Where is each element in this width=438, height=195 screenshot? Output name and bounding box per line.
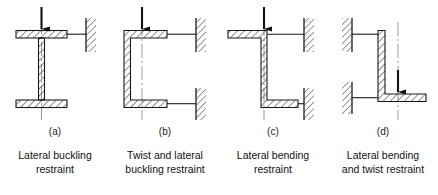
z-section-c [228, 31, 298, 108]
panel-b: (b) Twist and lateral buckling restraint [110, 0, 220, 195]
caption-line: Lateral buckling [0, 148, 110, 162]
panel-caption-c: Lateral bending restraint [218, 148, 328, 176]
wall-support-b-top [196, 18, 206, 52]
panel-d: (d) Lateral bending and twist restraint [328, 0, 438, 195]
caption-line: restraint [0, 162, 110, 176]
angle-section-d [378, 31, 426, 102]
panel-caption-a: Lateral buckling restraint [0, 148, 110, 176]
caption-line: and twist restraint [328, 162, 438, 176]
panel-a: (a) Lateral buckling restraint [0, 0, 110, 195]
panel-caption-d: Lateral bending and twist restraint [328, 148, 438, 176]
panel-c: (c) Lateral bending restraint [218, 0, 328, 195]
panel-label-c: (c) [218, 126, 328, 137]
wall-support-b-bottom [196, 88, 206, 120]
panel-label-d: (d) [328, 126, 438, 137]
caption-line: Lateral bending [218, 148, 328, 162]
restraint-types-figure: (a) Lateral buckling restraint [0, 0, 438, 195]
bottom-flange-a [16, 100, 67, 108]
channel-section-b [124, 31, 167, 108]
panel-label-b: (b) [110, 126, 220, 137]
wall-support-d-bottom [342, 82, 352, 114]
panel-label-a: (a) [0, 126, 110, 137]
top-flange-a [16, 31, 67, 39]
diagram-b-c-channel [110, 0, 220, 125]
wall-support-c-top [304, 18, 314, 52]
web-a [39, 38, 45, 100]
diagram-a-i-section [0, 0, 110, 125]
caption-line: buckling restraint [110, 162, 220, 176]
wall-support-c-bottom [304, 88, 314, 120]
wall-support-d-top [342, 18, 352, 52]
panel-caption-b: Twist and lateral buckling restraint [110, 148, 220, 176]
wall-support-a [86, 18, 96, 52]
caption-line: Twist and lateral [110, 148, 220, 162]
caption-line: restraint [218, 162, 328, 176]
caption-line: Lateral bending [328, 148, 438, 162]
diagram-d-angle-section [328, 0, 438, 125]
diagram-c-z-section [218, 0, 328, 125]
